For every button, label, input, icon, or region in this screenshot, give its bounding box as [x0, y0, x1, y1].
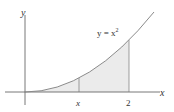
x-axis-label: x	[159, 87, 165, 98]
tick-label-2: 2	[126, 98, 131, 108]
function-label-exponent: 2	[116, 27, 119, 33]
function-label: y = x2	[97, 27, 119, 38]
function-label-base: y = x	[97, 28, 116, 38]
tick-label-x: x	[75, 98, 80, 108]
shaded-area	[25, 40, 129, 92]
parabola-area-diagram: y x x 2 y = x2	[0, 0, 174, 112]
y-axis-label: y	[20, 7, 26, 18]
